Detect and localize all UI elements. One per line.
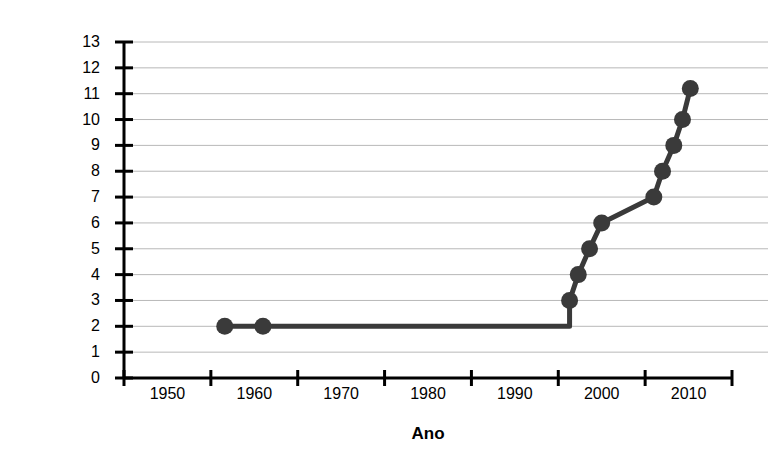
data-point	[654, 163, 671, 180]
data-point	[570, 266, 587, 283]
data-point	[682, 80, 699, 97]
data-point	[561, 292, 578, 309]
data-point	[254, 318, 271, 335]
gridlines	[124, 42, 768, 352]
data-markers	[216, 80, 699, 335]
x-axis-title-text: Ano	[411, 424, 444, 443]
chart-figure: Quantidade de drogas para diabetes 01234…	[0, 0, 768, 472]
data-point	[674, 111, 691, 128]
data-point	[645, 189, 662, 206]
data-point	[581, 240, 598, 257]
data-point	[665, 137, 682, 154]
data-point	[216, 318, 233, 335]
series-line	[225, 89, 691, 327]
plot-area	[0, 0, 768, 472]
x-axis-title: Ano	[124, 424, 732, 444]
data-point	[593, 214, 610, 231]
data-line	[225, 89, 691, 327]
